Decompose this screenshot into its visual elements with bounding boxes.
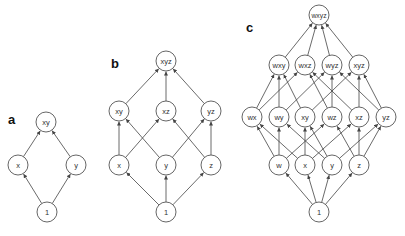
edge-arrow xyxy=(126,172,159,205)
node-label: wz xyxy=(326,113,336,122)
panel-b: bxyzxyxzyzxyz1 xyxy=(109,51,221,222)
node-wxy: wxy xyxy=(269,55,289,75)
panel-label: b xyxy=(111,56,119,71)
node-w: w xyxy=(269,155,289,175)
edge-arrow xyxy=(337,126,354,156)
node-label: xyz xyxy=(160,57,172,66)
edge-arrow xyxy=(52,131,70,157)
node-wxyz: wxyz xyxy=(309,5,329,25)
node-label: wxy xyxy=(272,61,286,70)
node-label: 1 xyxy=(317,208,321,217)
node-label: xyz xyxy=(353,61,365,70)
node-x: x xyxy=(295,155,315,175)
edge-arrow xyxy=(52,174,70,204)
edge-arrow xyxy=(310,74,328,108)
node-xy: xy xyxy=(295,107,315,127)
node-wy: wy xyxy=(269,107,289,127)
node-label: xz xyxy=(162,107,170,116)
edge-arrow xyxy=(257,126,274,156)
node-label: x xyxy=(16,161,20,170)
node-label: y xyxy=(74,161,78,170)
edge-arrow xyxy=(284,74,301,108)
node-label: 1 xyxy=(45,208,49,217)
node-label: wxyz xyxy=(310,12,327,20)
edge-arrow xyxy=(173,69,204,104)
node-z: z xyxy=(349,155,369,175)
panel-c: cwxyzwxywxzwyzxyzwxwyxywzxzyzwxyz1 xyxy=(242,5,396,222)
edge-arrow xyxy=(23,131,40,157)
edge-arrow xyxy=(308,175,316,202)
node-label: w xyxy=(275,161,282,170)
node-xz: xz xyxy=(349,107,369,127)
node-y: y xyxy=(66,155,86,175)
node-label: wy xyxy=(273,113,283,122)
edge-arrow xyxy=(326,23,353,57)
node-label: x xyxy=(117,161,121,170)
node-label: y xyxy=(164,161,168,170)
node-yz: yz xyxy=(376,107,396,127)
edge-arrow xyxy=(364,74,382,108)
node-1: 1 xyxy=(156,202,176,222)
node-xy: xy xyxy=(36,112,56,132)
node-label: xz xyxy=(355,113,363,122)
node-label: wxz xyxy=(298,61,312,70)
node-x: x xyxy=(109,155,129,175)
node-wz: wz xyxy=(322,107,342,127)
node-label: xy xyxy=(42,118,50,127)
edge-arrow xyxy=(173,173,204,205)
node-z: z xyxy=(201,155,221,175)
node-y: y xyxy=(156,155,176,175)
edge-arrow xyxy=(310,126,327,156)
node-xyz: xyz xyxy=(349,55,369,75)
edge-arrow xyxy=(322,25,330,55)
node-x: x xyxy=(8,155,28,175)
edge-arrow xyxy=(325,173,352,204)
node-label: yz xyxy=(207,107,215,116)
node-label: z xyxy=(357,161,361,170)
node-1: 1 xyxy=(37,202,57,222)
node-y: y xyxy=(322,155,342,175)
edge-arrow xyxy=(24,174,42,204)
node-wyz: wyz xyxy=(322,55,342,75)
node-xyz: xyz xyxy=(156,51,176,71)
node-label: xy xyxy=(115,107,123,116)
node-xy: xy xyxy=(109,101,129,121)
node-yz: yz xyxy=(201,101,221,121)
edge-arrow xyxy=(322,175,330,202)
edge-arrow xyxy=(308,25,316,55)
edge-arrow xyxy=(364,126,381,156)
panel-a: axyxy1 xyxy=(8,112,86,222)
node-label: 1 xyxy=(164,208,168,217)
node-1: 1 xyxy=(309,202,329,222)
node-label: wyz xyxy=(325,61,339,70)
edge-arrow xyxy=(257,74,275,108)
node-label: y xyxy=(330,161,334,170)
node-label: z xyxy=(209,161,213,170)
node-wx: wx xyxy=(242,107,262,127)
node-label: x xyxy=(303,161,307,170)
node-label: wx xyxy=(246,113,256,122)
node-wxz: wxz xyxy=(295,55,315,75)
edge-arrow xyxy=(126,69,159,104)
node-label: yz xyxy=(382,113,390,122)
lattice-diagram: axyxy1 bxyzxyxzyzxyz1 cwxyzwxywxzwyzxyzw… xyxy=(0,0,405,236)
panel-label: a xyxy=(8,112,16,127)
node-xz: xz xyxy=(156,101,176,121)
node-label: xy xyxy=(301,113,309,122)
panel-label: c xyxy=(246,20,253,35)
